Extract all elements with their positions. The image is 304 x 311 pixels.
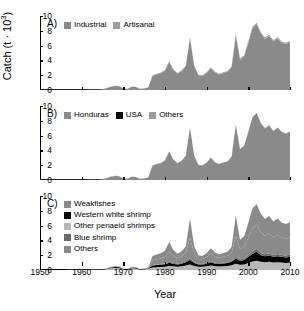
x-axis-tick-mark — [248, 87, 249, 91]
y-axis-tick-mark — [40, 165, 43, 166]
legend-label-others-c: Others — [74, 244, 98, 254]
y-axis-tick-mark — [40, 31, 43, 32]
area-series — [40, 24, 290, 90]
x-axis-tick-mark — [248, 262, 249, 266]
legend-label-industrial: Industrial — [74, 20, 106, 30]
legend-item-industrial: Industrial — [64, 20, 106, 30]
panel-c-legend: Weakfishes Western white shrimp Other pe… — [64, 199, 155, 255]
x-axis-tick-label: 2010 — [281, 267, 300, 277]
panel-b: B) HondurasUSAOthers 1086420 — [0, 98, 304, 188]
x-axis-tick-mark — [82, 87, 83, 91]
legend-swatch-usa — [116, 112, 123, 119]
y-axis-tick-label: 0 — [30, 86, 52, 95]
legend-item-weakfishes: Weakfishes — [64, 199, 155, 209]
x-axis-tick-mark — [290, 177, 291, 181]
x-axis-tick-mark — [82, 177, 83, 181]
x-axis-tick-mark — [290, 87, 291, 91]
legend-swatch-weakfishes — [64, 201, 71, 208]
y-axis-tick-mark — [40, 226, 43, 227]
legend-item-honduras: Honduras — [64, 110, 109, 120]
panel-b-legend: HondurasUSAOthers — [64, 110, 190, 122]
legend-label-others-b: Others — [159, 110, 183, 120]
y-axis-tick-mark — [40, 106, 43, 107]
x-axis-tick-mark — [123, 262, 124, 266]
x-axis-tick-label: 1970 — [114, 267, 133, 277]
x-axis-tick-mark — [123, 177, 124, 181]
legend-swatch-others-b — [149, 112, 156, 119]
figure-root: Catch (t · 103) A) IndustrialArtisanal 1… — [0, 0, 304, 311]
x-axis-tick-mark — [290, 262, 291, 266]
legend-item-artisanal: Artisanal — [113, 20, 154, 30]
y-axis-tick-mark — [40, 255, 43, 256]
panel-c: C) Weakfishes Western white shrimp Other… — [0, 188, 304, 278]
x-axis-tick-mark — [165, 87, 166, 91]
legend-swatch-industrial — [64, 22, 71, 29]
y-axis-tick-mark — [40, 121, 43, 122]
y-axis-tick-mark — [40, 16, 43, 17]
x-axis-tick-mark — [207, 177, 208, 181]
legend-swatch-western-white-shrimp — [64, 212, 71, 219]
x-axis-tick-mark — [207, 87, 208, 91]
x-axis-tick-mark — [165, 177, 166, 181]
x-axis: 1950196019701980199020002010 — [40, 262, 290, 263]
legend-swatch-other-penaeid-shrimps — [64, 223, 71, 230]
x-axis-tick-mark — [40, 262, 41, 266]
legend-swatch-artisanal — [113, 22, 120, 29]
y-axis-tick-mark — [40, 136, 43, 137]
legend-item-other-penaeid-shrimps: Other penaeid shrimps — [64, 221, 155, 231]
legend-label-honduras: Honduras — [74, 110, 109, 120]
y-axis-tick-mark — [40, 75, 43, 76]
x-axis-tick-mark — [82, 262, 83, 266]
panel-a-legend: IndustrialArtisanal — [64, 20, 162, 32]
legend-item-others-c: Others — [64, 244, 155, 254]
legend-label-artisanal: Artisanal — [123, 20, 154, 30]
x-axis-tick-label: 1980 — [156, 267, 175, 277]
legend-label-usa: USA — [126, 110, 142, 120]
y-axis-tick-mark — [40, 196, 43, 197]
area-series — [40, 114, 290, 180]
legend-label-western-white-shrimp: Western white shrimp — [74, 210, 151, 220]
x-axis-tick-mark — [207, 262, 208, 266]
x-axis-tick-mark — [123, 87, 124, 91]
x-axis-title: Year — [40, 288, 290, 300]
legend-label-blue-shrimp: Blue shrimp — [74, 233, 116, 243]
x-axis-tick-mark — [248, 177, 249, 181]
legend-swatch-honduras — [64, 112, 71, 119]
legend-swatch-blue-shrimp — [64, 234, 71, 241]
y-axis-tick-mark — [40, 211, 43, 212]
x-axis-tick-label: 1950 — [31, 267, 50, 277]
legend-item-others-b: Others — [149, 110, 183, 120]
x-axis-tick-label: 2000 — [239, 267, 258, 277]
panel-a: A) IndustrialArtisanal 1086420 — [0, 8, 304, 98]
legend-item-western-white-shrimp: Western white shrimp — [64, 210, 155, 220]
y-axis-tick-mark — [40, 60, 43, 61]
y-axis-tick-mark — [40, 240, 43, 241]
y-axis-tick-label: 0 — [30, 176, 52, 185]
legend-item-blue-shrimp: Blue shrimp — [64, 233, 155, 243]
legend-swatch-others-c — [64, 246, 71, 253]
x-axis-tick-mark — [165, 262, 166, 266]
legend-label-weakfishes: Weakfishes — [74, 199, 115, 209]
legend-item-usa: USA — [116, 110, 142, 120]
y-axis-tick-mark — [40, 150, 43, 151]
x-axis-tick-label: 1990 — [197, 267, 216, 277]
legend-label-other-penaeid-shrimps: Other penaeid shrimps — [74, 221, 155, 231]
y-axis-tick-mark — [40, 46, 43, 47]
x-axis-tick-label: 1960 — [72, 267, 91, 277]
